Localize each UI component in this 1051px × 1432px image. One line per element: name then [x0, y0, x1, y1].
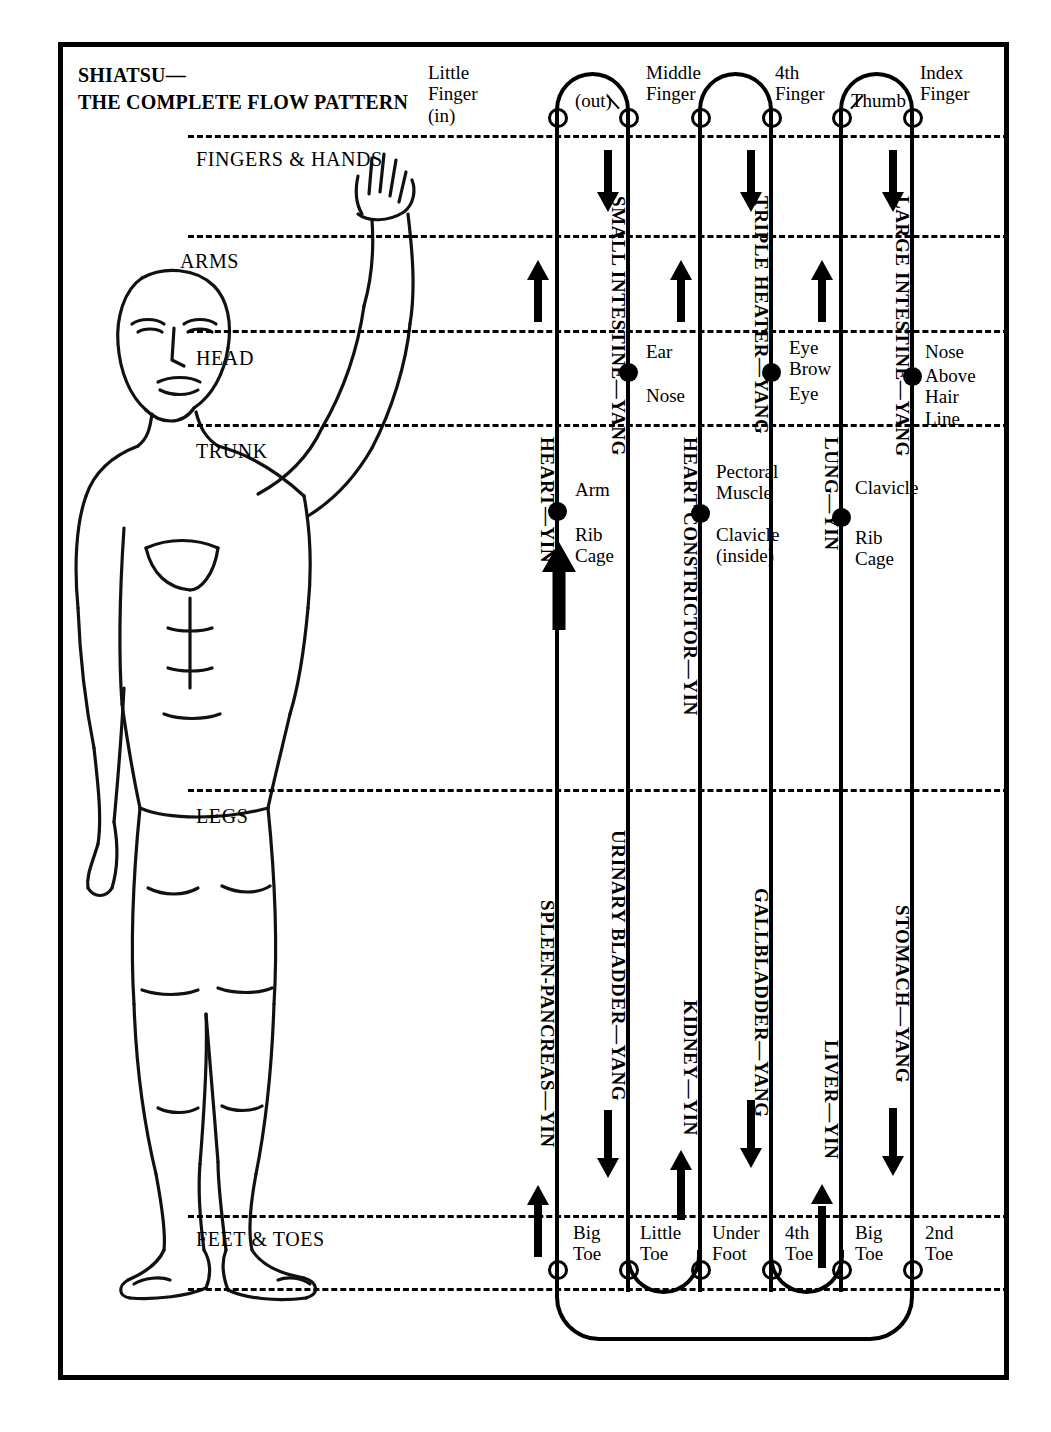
- point-label-lung-rib-cage: Rib Cage: [855, 527, 894, 570]
- band-label-legs: LEGS: [196, 805, 248, 828]
- point-label-heart-arm: Arm: [575, 479, 610, 500]
- terminal-circle-index-finger: [903, 108, 923, 128]
- meridian-label-urinary-bladder: URINARY BLADDER—YANG: [607, 830, 629, 1101]
- terminal-circle-middle-finger: [691, 108, 711, 128]
- terminal-circle-second-toe: [903, 1260, 923, 1280]
- terminal-circle-thumb: [832, 108, 852, 128]
- meridian-label-large-intestine: LARGE INTESTINE—YANG: [891, 196, 913, 457]
- point-label-heart-rib-cage: Rib Cage: [575, 524, 614, 567]
- flow-arrow-large-intestine-down: [882, 150, 904, 212]
- meridian-label-heart-constrictor: HEART CONSTRICTOR—YIN: [679, 437, 701, 716]
- terminal-circle-big-toe-2: [832, 1260, 852, 1280]
- terminal-circle-little-toe: [619, 1260, 639, 1280]
- flow-arrow-heart-up-arms: [527, 260, 549, 322]
- terminal-label-middle-finger: Middle Finger: [646, 62, 701, 105]
- terminal-circle-fourth-toe: [762, 1260, 782, 1280]
- meridian-label-kidney: KIDNEY—YIN: [679, 1000, 701, 1136]
- point-label-large-intestine-nose: Nose: [925, 341, 964, 362]
- flow-arrow-urinary-bladder-down: [597, 1110, 619, 1178]
- point-label-small-intestine-nose: Nose: [646, 385, 685, 406]
- band-label-trunk: TRUNK: [196, 440, 268, 463]
- band-divider-trunk-top: [188, 424, 1009, 427]
- terminal-circle-little-finger-in: [548, 108, 568, 128]
- shiatsu-flow-pattern-diagram: SHIATSU— THE COMPLETE FLOW PATTERN: [0, 0, 1051, 1432]
- meridian-label-triple-heater: TRIPLE HEATER—YANG: [750, 196, 772, 434]
- flow-arrow-triple-heater-down: [740, 150, 762, 212]
- loop-stomach-spleen-pancreas-return: [555, 1255, 914, 1341]
- meridian-label-liver: LIVER—YIN: [820, 1040, 842, 1159]
- point-dot-large-intestine: [903, 367, 922, 386]
- meridian-label-lung: LUNG—YIN: [820, 437, 842, 551]
- point-dot-heart: [548, 502, 567, 521]
- flow-arrow-heart-constrictor-up: [670, 260, 692, 322]
- flow-arrow-liver-up: [811, 1184, 833, 1268]
- band-divider-head-top: [188, 330, 1009, 333]
- point-label-lung-clavicle: Clavicle: [855, 477, 918, 498]
- flow-arrow-spleen-pancreas-up: [527, 1185, 549, 1257]
- point-label-heart-constrictor-pectoral: Pectoral Muscle: [716, 461, 778, 504]
- terminal-label-little-finger-in: Little Finger (in): [428, 62, 500, 126]
- terminal-label-second-toe: 2nd Toe: [925, 1222, 954, 1265]
- point-dot-small-intestine: [619, 363, 638, 382]
- meridian-label-spleen-pancreas: SPLEEN-PANCREAS—YIN: [536, 900, 558, 1148]
- terminal-circle-fourth-finger: [762, 108, 782, 128]
- human-body-figure: [72, 128, 452, 1328]
- terminal-label-out: (out): [575, 90, 612, 111]
- terminal-label-index-finger: Index Finger: [920, 62, 970, 105]
- band-divider-feet-toes-top: [188, 1215, 1009, 1218]
- point-label-triple-heater-eye: Eye: [789, 383, 819, 404]
- point-label-heart-constrictor-clavicle: Clavicle (inside): [716, 524, 779, 567]
- terminal-circle-under-foot: [691, 1260, 711, 1280]
- band-divider-arms-top: [188, 235, 1009, 238]
- flow-arrow-kidney-up: [670, 1150, 692, 1220]
- meridian-label-gallbladder: GALLBLADDER—YANG: [750, 888, 772, 1118]
- band-label-feet-toes: FEET & TOES: [196, 1228, 325, 1251]
- band-label-head: HEAD: [196, 347, 254, 370]
- meridian-label-small-intestine: SMALL INTESTINE—YANG: [607, 196, 629, 456]
- terminal-circle-big-toe-1: [548, 1260, 568, 1280]
- terminal-label-little-finger-in-text: Little Finger (in): [428, 62, 500, 126]
- flow-arrow-small-intestine-down: [597, 150, 619, 212]
- flow-arrow-heart-up-trunk: [542, 542, 576, 630]
- flow-arrow-lung-up: [811, 260, 833, 322]
- terminal-label-fourth-finger: 4th Finger: [775, 62, 825, 105]
- point-label-triple-heater-eye-brow: Eye Brow: [789, 337, 831, 380]
- point-dot-triple-heater: [762, 363, 781, 382]
- meridian-label-stomach: STOMACH—YANG: [891, 905, 913, 1083]
- terminal-label-under-foot: Under Foot: [712, 1222, 759, 1265]
- flow-arrow-gallbladder-down: [740, 1100, 762, 1168]
- flow-arrow-stomach-down: [882, 1108, 904, 1176]
- terminal-circle-out: [619, 108, 639, 128]
- terminal-label-fourth-toe: 4th Toe: [785, 1222, 813, 1265]
- point-dot-heart-constrictor: [691, 504, 710, 523]
- point-label-small-intestine-ear: Ear: [646, 341, 672, 362]
- terminal-label-big-toe-1: Big Toe: [573, 1222, 601, 1265]
- terminal-label-big-toe-2: Big Toe: [855, 1222, 883, 1265]
- band-label-arms: ARMS: [180, 250, 239, 273]
- point-dot-lung: [832, 508, 851, 527]
- terminal-label-little-toe: Little Toe: [640, 1222, 681, 1265]
- point-label-large-intestine-hairline: Above Hair Line: [925, 365, 976, 429]
- band-label-fingers-hands: FINGERS & HANDS: [196, 148, 383, 171]
- band-divider-legs-top: [188, 789, 1009, 792]
